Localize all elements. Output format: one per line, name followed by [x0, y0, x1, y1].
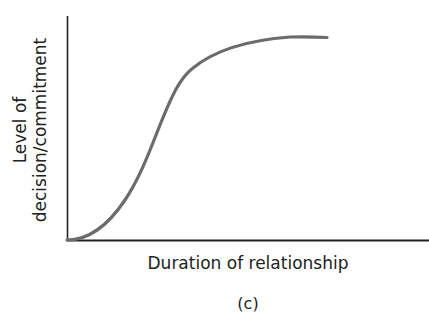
x-axis-label: Duration of relationship: [67, 253, 429, 273]
figure-caption: (c): [67, 294, 429, 313]
y-axis-label-line-2: decision/commitment: [30, 38, 50, 223]
y-axis-label-line-1: Level of: [10, 38, 30, 223]
commitment-curve: [67, 37, 327, 240]
chart-plot: [0, 0, 429, 326]
